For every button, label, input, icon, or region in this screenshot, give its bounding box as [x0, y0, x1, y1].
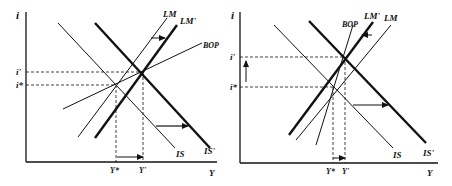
is-prime-label: IS'	[422, 148, 435, 158]
i-prime-label: i'	[230, 52, 236, 62]
is-curve	[58, 23, 175, 148]
is-prime-curve	[309, 21, 426, 143]
bop-label: BOP	[341, 20, 358, 29]
lm-label: LM	[162, 9, 177, 19]
lm-prime-curve	[289, 22, 373, 135]
is-label: IS	[175, 149, 185, 159]
lm-curve	[78, 18, 167, 137]
x-axis-label: Y	[427, 168, 434, 178]
is-prime-label: IS'	[203, 146, 216, 156]
is-label: IS	[392, 150, 402, 160]
bop-label: BOP	[202, 41, 219, 50]
y-star-label: Y*	[110, 166, 120, 175]
y-prime-label: Y'	[139, 166, 147, 175]
lm-prime-label: LM'	[363, 11, 381, 21]
i-prime-label: i'	[16, 67, 22, 77]
i-star-label: i*	[16, 80, 24, 90]
bop-curve	[63, 43, 202, 109]
is-lm-bop-diagram: i Y LM LM' BOP IS IS' i' i* Y* Y' i Y	[0, 0, 452, 186]
y-axis-label: i	[231, 9, 235, 21]
lm-label: LM	[383, 13, 398, 23]
x-axis-label: Y	[209, 168, 216, 178]
left-panel: i Y LM LM' BOP IS IS' i' i* Y* Y'	[16, 9, 219, 178]
y-star-label: Y*	[326, 167, 336, 176]
y-prime-label: Y'	[342, 167, 350, 176]
i-star-label: i*	[230, 82, 238, 92]
lm-curve	[296, 25, 391, 140]
right-panel: i Y BOP LM' LM IS IS' i' i* Y* Y'	[230, 9, 438, 178]
lm-prime-curve	[95, 25, 177, 138]
y-axis-label: i	[16, 9, 20, 21]
bop-curve	[316, 25, 353, 145]
lm-prime-label: LM'	[179, 16, 197, 26]
